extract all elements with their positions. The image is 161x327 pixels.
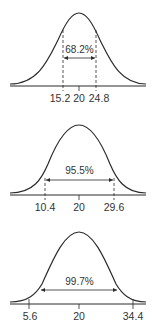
arrowhead-right (113, 288, 117, 292)
tick-label-right: 29.6 (104, 201, 125, 213)
percent-label: 68.2% (65, 44, 93, 55)
arrowhead-right (91, 56, 95, 60)
arrowhead-left (41, 288, 45, 292)
tick-label-mean: 20 (73, 310, 85, 322)
tick-label-right: 34.4 (123, 310, 144, 322)
arrowhead-left (46, 178, 50, 182)
chart-2sd: 95.5% 10.4 20 29.6 (10, 125, 146, 213)
tick-label-mean: 20 (73, 92, 85, 104)
normal-distribution-figure: 68.2% 15.2 20 24.8 95.5% 10.4 20 29.6 99… (0, 0, 161, 327)
bell-curve (10, 232, 146, 302)
tick-label-left: 5.6 (23, 310, 38, 322)
arrowhead-right (109, 178, 113, 182)
tick-label-mean: 20 (73, 201, 85, 213)
tick-label-left: 15.2 (50, 92, 71, 104)
arrowhead-left (64, 56, 68, 60)
bell-curve (10, 125, 146, 193)
tick-label-right: 24.8 (89, 92, 110, 104)
chart-1sd: 68.2% 15.2 20 24.8 (10, 13, 146, 104)
tick-label-left: 10.4 (35, 201, 56, 213)
percent-label: 95.5% (65, 165, 93, 176)
percent-label: 99.7% (65, 276, 93, 287)
chart-3sd: 99.7% 5.6 20 34.4 (10, 232, 146, 322)
